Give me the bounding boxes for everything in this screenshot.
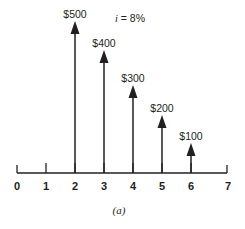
tick-label-7: 7	[225, 180, 231, 192]
time-axis	[17, 163, 227, 173]
cash-flow-diagram: 0 1 2 3 4 5 6 7	[0, 0, 245, 229]
tick-label-6: 6	[188, 180, 194, 192]
cash-flow-svg: 0 1 2 3 4 5 6 7	[0, 0, 245, 229]
interest-rate-annotation: i = 8%	[115, 12, 145, 24]
interest-rate-equals: =	[118, 12, 130, 24]
cash-flow-arrow-period-5	[158, 115, 167, 173]
arrow-head-period-4	[129, 85, 138, 98]
cash-flow-label-period-2: $500	[63, 8, 87, 20]
tick-label-3: 3	[101, 180, 107, 192]
cash-flow-label-period-3: $400	[92, 37, 116, 49]
cash-flow-label-period-4: $300	[121, 72, 145, 84]
interest-rate-text: i = 8%	[115, 12, 145, 24]
cash-flow-arrows	[71, 21, 196, 173]
cash-flow-label-period-6: $100	[179, 130, 203, 142]
cash-flow-arrow-period-6	[187, 143, 196, 173]
cash-flow-arrow-period-2	[71, 21, 80, 173]
axis-tick-labels: 0 1 2 3 4 5 6 7	[14, 180, 231, 192]
arrow-head-period-6	[187, 143, 196, 156]
tick-label-1: 1	[43, 180, 49, 192]
tick-label-4: 4	[130, 180, 137, 192]
interest-rate-value: 8%	[130, 12, 145, 24]
figure-caption: (a)	[113, 204, 126, 217]
arrow-head-period-3	[100, 50, 109, 63]
cash-flow-label-period-5: $200	[150, 102, 174, 114]
tick-label-2: 2	[72, 180, 78, 192]
arrow-head-period-5	[158, 115, 167, 128]
cash-flow-arrow-period-4	[129, 85, 138, 173]
tick-label-0: 0	[14, 180, 20, 192]
cash-flow-arrow-period-3	[100, 50, 109, 173]
tick-label-5: 5	[159, 180, 165, 192]
arrow-head-period-2	[71, 21, 80, 34]
